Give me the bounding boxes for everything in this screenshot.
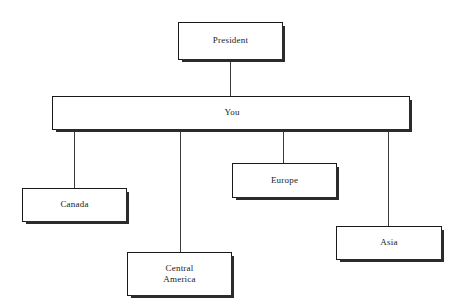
node-europe-label: Europe [271,175,298,186]
node-central-america[interactable]: Central America [127,252,232,296]
node-president-label: President [213,35,248,46]
connector-president-to-you [230,60,231,96]
node-president[interactable]: President [178,22,283,60]
node-you[interactable]: You [52,96,410,130]
node-canada[interactable]: Canada [22,188,127,222]
node-europe[interactable]: Europe [232,163,337,198]
connector-you-to-asia [388,130,389,226]
connector-you-to-europe [283,130,284,163]
connector-you-to-canada [74,130,75,188]
node-canada-label: Canada [60,199,88,210]
node-you-label: You [53,107,411,118]
connector-you-to-central-america [180,130,181,252]
node-asia-label: Asia [380,237,397,248]
node-central-america-label: Central America [163,263,195,286]
org-chart-canvas: President You Canada Central America Eur… [0,0,463,307]
node-asia[interactable]: Asia [336,226,442,260]
